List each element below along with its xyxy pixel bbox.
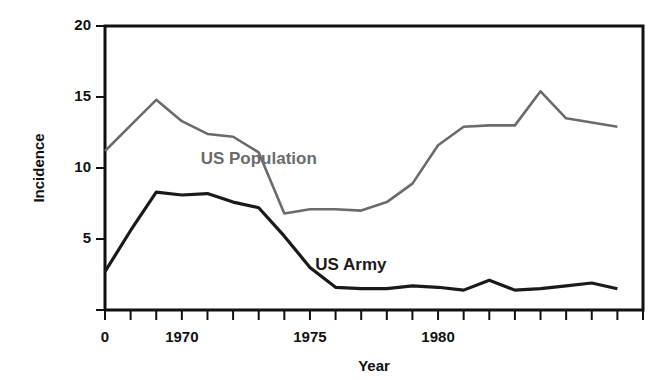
series-label-us-population: US Population: [201, 149, 317, 168]
y-axis-tick-label: 15: [74, 87, 91, 104]
x-axis-title: Year: [358, 357, 390, 374]
y-axis-tick-label: 20: [74, 16, 91, 33]
y-axis-tick-labels: 5101520: [74, 16, 91, 246]
x-axis-tick-label: 0: [101, 328, 109, 345]
x-axis-tick-label: 1980: [421, 328, 454, 345]
y-axis-tick-label: 5: [83, 229, 91, 246]
series-label-us-army: US Army: [315, 255, 387, 274]
x-axis-tick-labels: 0197019751980: [101, 328, 455, 345]
incidence-by-year-line-chart: 5101520 0197019751980 US Population US A…: [0, 0, 669, 380]
y-axis-title: Incidence: [30, 133, 47, 202]
x-axis-tick-label: 1975: [293, 328, 326, 345]
x-axis-tick-label: 1970: [165, 328, 198, 345]
series-line-us-army: [105, 192, 617, 290]
y-axis-tick-label: 10: [74, 158, 91, 175]
